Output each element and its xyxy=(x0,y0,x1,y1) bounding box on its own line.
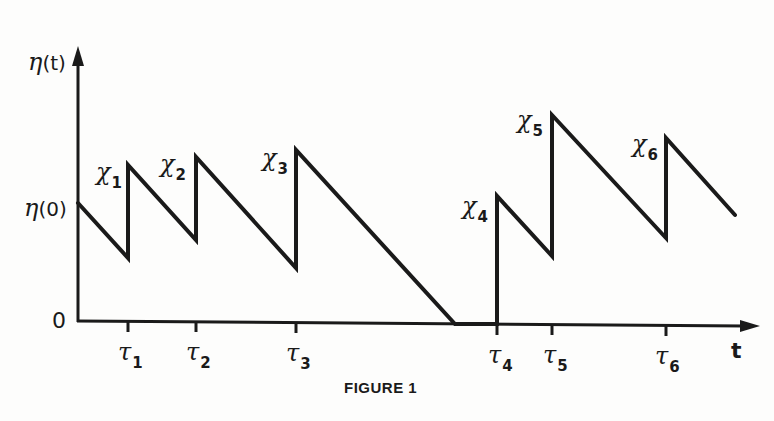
y-axis-label: η(t) xyxy=(28,50,66,74)
tau-symbol: τ xyxy=(655,342,668,370)
tau-1-label: τ1 xyxy=(118,340,143,364)
tau-subscript: 1 xyxy=(132,354,142,372)
chi-subscript: 6 xyxy=(648,146,658,164)
chi-5-label: χ5 xyxy=(517,108,543,132)
chi-3-label: χ3 xyxy=(262,146,288,170)
chi-6-label: χ6 xyxy=(632,132,658,156)
chi-symbol: χ xyxy=(96,158,111,186)
chi-subscript: 4 xyxy=(478,208,488,226)
tau-subscript: 5 xyxy=(557,357,567,375)
chi-symbol: χ xyxy=(462,192,477,220)
tau-6-label: τ6 xyxy=(655,344,680,368)
tau-subscript: 6 xyxy=(669,358,679,376)
tau-symbol: τ xyxy=(488,341,501,369)
origin-label: 0 xyxy=(52,310,66,332)
x-axis-label: t xyxy=(731,340,742,362)
figure-1: η(t) η(0) 0 t χ1 χ2 χ3 χ4 χ5 χ6 τ1 τ2 τ3… xyxy=(0,0,774,421)
chi-subscript: 1 xyxy=(112,174,122,192)
x-axis-arrow-icon xyxy=(740,320,760,332)
chi-subscript: 2 xyxy=(176,166,186,184)
chi-1-label: χ1 xyxy=(96,160,122,184)
chi-subscript: 3 xyxy=(278,160,288,178)
tau-symbol: τ xyxy=(118,338,131,366)
eta-zero-arg: (0) xyxy=(38,197,66,221)
y-axis-label-arg: (t) xyxy=(42,51,65,75)
tau-subscript: 2 xyxy=(200,354,210,372)
chi-symbol: χ xyxy=(517,106,532,134)
tau-3-label: τ3 xyxy=(286,341,311,365)
y-axis-arrow-icon xyxy=(72,46,84,66)
chi-symbol: χ xyxy=(160,150,175,178)
tau-subscript: 4 xyxy=(502,357,512,375)
chi-symbol: χ xyxy=(262,144,277,172)
chi-symbol: χ xyxy=(632,130,647,158)
tau-symbol: τ xyxy=(286,339,299,367)
chi-2-label: χ2 xyxy=(160,152,186,176)
tau-subscript: 3 xyxy=(300,355,310,373)
x-axis xyxy=(77,321,745,326)
chi-subscript: 5 xyxy=(533,122,543,140)
eta-zero-label: η(0) xyxy=(24,196,67,220)
eta-symbol: η xyxy=(24,194,38,222)
tau-5-label: τ5 xyxy=(543,343,568,367)
figure-caption: FIGURE 1 xyxy=(344,380,417,395)
tau-4-label: τ4 xyxy=(488,343,513,367)
tau-symbol: τ xyxy=(543,341,556,369)
tau-symbol: τ xyxy=(186,338,199,366)
eta-symbol: η xyxy=(28,48,42,76)
chi-4-label: χ4 xyxy=(462,194,488,218)
tau-2-label: τ2 xyxy=(186,340,211,364)
